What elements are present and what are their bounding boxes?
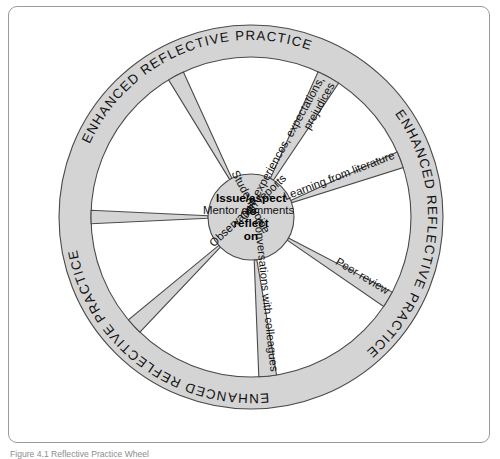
spoke-peer-review xyxy=(287,238,392,306)
spoke-mentor-comments xyxy=(91,210,208,223)
figure-frame: Issue/aspecttoreflecton ENHANCED REFLECT… xyxy=(8,6,490,443)
reflective-practice-wheel-diagram: Issue/aspecttoreflecton ENHANCED REFLECT… xyxy=(9,7,491,442)
spoke-student-voice xyxy=(169,72,232,180)
figure-caption: Figure 4.1 Reflective Practice Wheel xyxy=(10,449,480,459)
spoke-observation-reports xyxy=(128,245,220,332)
